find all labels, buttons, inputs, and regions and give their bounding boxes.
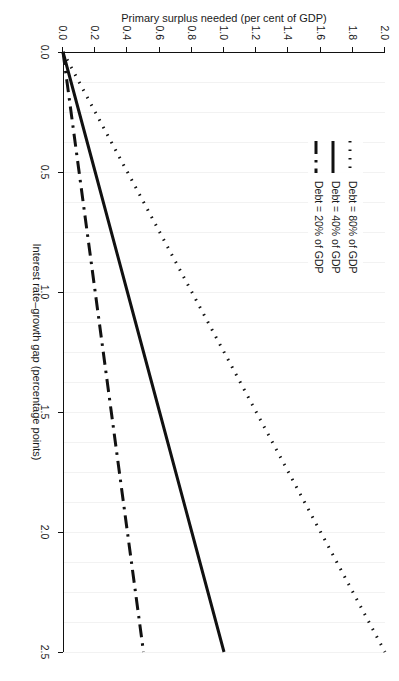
legend-label: Debt = 20% of GDP xyxy=(313,181,324,274)
legend-swatch-icon xyxy=(330,140,342,174)
chart-legend: Debt = 80% of GDPDebt = 40% of GDPDebt =… xyxy=(308,136,363,278)
y-tick-label: 0.0 xyxy=(58,25,69,40)
legend-label: Debt = 80% of GDP xyxy=(347,181,358,274)
y-tick-label: 1.6 xyxy=(315,25,326,40)
series-line-2 xyxy=(63,52,224,652)
plot-area: 0.00.20.40.60.81.01.21.41.61.82.0 0.00.5… xyxy=(63,52,385,652)
legend-item[interactable]: Debt = 40% of GDP xyxy=(327,140,344,274)
y-tick-label: 1.4 xyxy=(283,25,294,40)
legend-item[interactable]: Debt = 20% of GDP xyxy=(310,140,327,274)
x-tick: 2.5 xyxy=(58,652,63,653)
y-tick-label: 0.4 xyxy=(122,25,133,40)
y-tick-label: 2.0 xyxy=(380,25,391,40)
legend-item[interactable]: Debt = 80% of GDP xyxy=(344,140,361,274)
y-tick-label: 1.8 xyxy=(348,25,359,40)
legend-swatch-icon xyxy=(313,140,325,174)
chart-figure: 0.00.20.40.60.81.01.21.41.61.82.0 0.00.5… xyxy=(0,0,399,681)
rotated-figure-canvas: 0.00.20.40.60.81.01.21.41.61.82.0 0.00.5… xyxy=(0,0,399,681)
y-tick-label: 0.6 xyxy=(154,25,165,40)
y-axis-title: Primary surplus needed (per cent of GDP) xyxy=(63,12,385,24)
y-tick-label: 1.2 xyxy=(251,25,262,40)
legend-swatch-icon xyxy=(347,140,359,174)
x-axis-title: Interest rate–growth gap (percentage poi… xyxy=(31,52,43,652)
y-tick-label: 1.0 xyxy=(219,25,230,40)
series-line-3 xyxy=(63,52,144,652)
y-tick-label: 0.8 xyxy=(187,25,198,40)
gridline xyxy=(63,652,385,653)
legend-label: Debt = 40% of GDP xyxy=(330,181,341,274)
y-tick-label: 0.2 xyxy=(90,25,101,40)
